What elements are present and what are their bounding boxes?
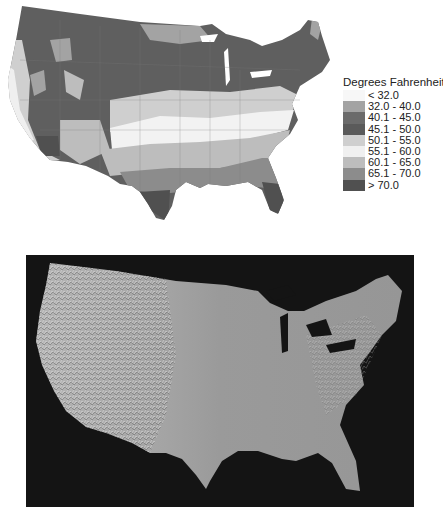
legend-item: > 70.0 xyxy=(343,180,443,191)
legend-swatch xyxy=(343,112,365,123)
legend-swatch xyxy=(343,135,365,146)
temperature-map xyxy=(0,0,340,230)
legend-item: 65.1 - 70.0 xyxy=(343,168,443,179)
legend-swatch xyxy=(343,180,365,191)
legend: Degrees Fahrenheit < 32.0 32.0 - 40.0 40… xyxy=(343,76,443,191)
relief-map xyxy=(26,255,414,507)
legend-label: 45.1 - 50.0 xyxy=(368,124,421,135)
legend-label: 65.1 - 70.0 xyxy=(368,168,421,179)
legend-swatch xyxy=(343,168,365,179)
legend-title: Degrees Fahrenheit xyxy=(343,76,443,88)
legend-item: 40.1 - 45.0 xyxy=(343,112,443,123)
legend-label: 40.1 - 45.0 xyxy=(368,112,421,123)
legend-swatch xyxy=(343,101,365,112)
legend-swatch xyxy=(343,90,365,101)
legend-swatch xyxy=(343,124,365,135)
relief-map-frame xyxy=(26,255,414,507)
legend-swatch xyxy=(343,146,365,157)
legend-label: > 70.0 xyxy=(368,180,399,191)
legend-swatch xyxy=(343,157,365,168)
